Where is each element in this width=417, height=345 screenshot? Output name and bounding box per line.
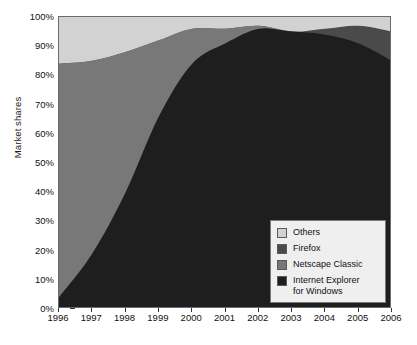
x-tick-label-1997: 1997: [81, 312, 102, 323]
legend-label-ie-line1: Internet Explorer: [293, 275, 360, 285]
x-tick-label-1999: 1999: [147, 312, 168, 323]
x-tick-label-1998: 1998: [114, 312, 135, 323]
x-tick-mark-2003: [291, 308, 292, 312]
x-tick-mark-2006: [391, 308, 392, 312]
legend-swatch-netscape-icon: [277, 260, 287, 270]
market-share-area-chart: Market shares 100%90%80%70%60%50%40%30%2…: [0, 0, 417, 345]
x-tick-mark-1997: [91, 308, 92, 312]
x-tick-label-2003: 2003: [281, 312, 302, 323]
legend-swatch-ie-icon: [277, 276, 287, 286]
x-tick-mark-1996: [58, 308, 59, 312]
x-tick-label-2000: 2000: [181, 312, 202, 323]
x-tick-mark-2000: [191, 308, 192, 312]
x-tick-mark-1998: [125, 308, 126, 312]
x-tick-mark-2005: [358, 308, 359, 312]
x-tick-mark-2002: [258, 308, 259, 312]
x-tick-mark-1999: [158, 308, 159, 312]
legend-item-firefox[interactable]: Firefox: [277, 243, 380, 254]
legend-item-others[interactable]: Others: [277, 227, 380, 238]
legend-label-ie-line2: for Windows: [293, 286, 343, 296]
legend-swatch-firefox-icon: [277, 244, 287, 254]
x-tick-label-2005: 2005: [347, 312, 368, 323]
x-tick-mark-2001: [225, 308, 226, 312]
x-tick-label-2006: 2006: [380, 312, 401, 323]
legend-label-internet-explorer: Internet Explorerfor Windows: [293, 275, 360, 296]
x-tick-label-2001: 2001: [214, 312, 235, 323]
legend-item-internet-explorer[interactable]: Internet Explorerfor Windows: [277, 275, 380, 296]
x-tick-label-2004: 2004: [314, 312, 335, 323]
legend-label-firefox: Firefox: [293, 243, 321, 254]
x-tick-label-1996: 1996: [47, 312, 68, 323]
chart-legend: Others Firefox Netscape Classic Internet…: [270, 220, 386, 303]
legend-label-netscape-classic: Netscape Classic: [293, 259, 363, 270]
legend-swatch-others-icon: [277, 228, 287, 238]
x-tick-label-2002: 2002: [247, 312, 268, 323]
legend-label-others: Others: [293, 227, 320, 238]
legend-item-netscape-classic[interactable]: Netscape Classic: [277, 259, 380, 270]
x-tick-mark-2004: [324, 308, 325, 312]
